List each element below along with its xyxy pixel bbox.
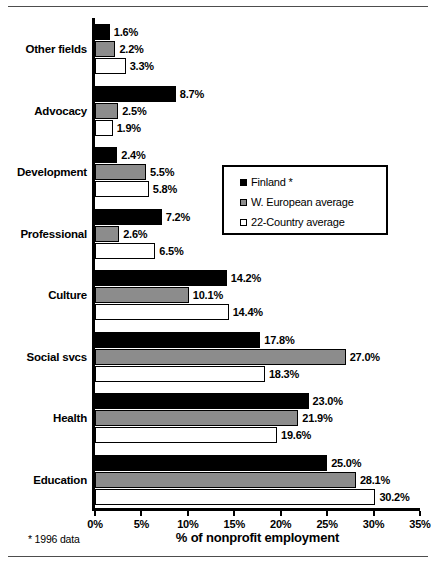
category-label: Professional — [0, 228, 87, 240]
bar[interactable] — [95, 304, 229, 320]
bar-value-label: 3.3% — [130, 59, 154, 73]
x-tick-label: 35% — [390, 518, 436, 530]
category-label: Health — [0, 412, 87, 424]
bar-value-label: 25.0% — [331, 456, 361, 470]
legend-label-w-european-average: W. European average — [251, 196, 354, 208]
bar[interactable] — [95, 86, 176, 102]
bar[interactable] — [95, 243, 155, 259]
bar-value-label: 2.4% — [121, 148, 145, 162]
bar-value-label: 14.4% — [233, 305, 263, 319]
category-label: Advocacy — [0, 105, 87, 117]
bar-value-label: 23.0% — [313, 394, 343, 408]
bar-group: Other fields1.6%2.2%3.3% — [95, 24, 420, 86]
bar-value-label: 21.9% — [302, 411, 332, 425]
bar[interactable] — [95, 147, 117, 163]
chart-footnote: * 1996 data — [28, 533, 80, 545]
bar[interactable] — [95, 270, 227, 286]
bar-value-label: 2.2% — [119, 42, 143, 56]
bar-value-label: 19.6% — [281, 428, 311, 442]
bar[interactable] — [95, 103, 118, 119]
chart-legend: Finland * W. European average 22-Country… — [222, 165, 388, 235]
bar-group: Education25.0%28.1%30.2% — [95, 455, 420, 517]
bar-value-label: 30.2% — [379, 490, 409, 504]
bar[interactable] — [95, 455, 327, 471]
category-label: Social svcs — [0, 351, 87, 363]
legend-item-w-european-average: W. European average — [240, 196, 354, 208]
bar[interactable] — [95, 287, 189, 303]
bar[interactable] — [95, 164, 146, 180]
bar-value-label: 8.7% — [180, 87, 204, 101]
category-label: Development — [0, 166, 87, 178]
bar-value-label: 6.5% — [159, 244, 183, 258]
bar[interactable] — [95, 393, 309, 409]
bar[interactable] — [95, 209, 162, 225]
bar-group: Advocacy8.7%2.5%1.9% — [95, 86, 420, 148]
bar[interactable] — [95, 226, 119, 242]
bar-group: Social svcs17.8%27.0%18.3% — [95, 332, 420, 394]
top-divider-rule — [8, 6, 428, 7]
category-label: Other fields — [0, 43, 87, 55]
bar[interactable] — [95, 41, 115, 57]
category-label: Culture — [0, 289, 87, 301]
bar-value-label: 17.8% — [264, 333, 294, 347]
x-axis-title: % of nonprofit employment — [95, 530, 420, 545]
bar[interactable] — [95, 427, 277, 443]
bar[interactable] — [95, 489, 375, 505]
legend-swatch-w-european-average — [240, 199, 247, 206]
bottom-divider-rule — [8, 556, 428, 557]
bar-value-label: 28.1% — [360, 473, 390, 487]
bar-group: Health23.0%21.9%19.6% — [95, 393, 420, 455]
legend-label-finland: Finland * — [251, 176, 293, 188]
bar-value-label: 1.9% — [117, 121, 141, 135]
bar[interactable] — [95, 58, 126, 74]
legend-item-22-country-average: 22-Country average — [240, 216, 345, 228]
bar-value-label: 18.3% — [269, 367, 299, 381]
bar-value-label: 5.8% — [153, 182, 177, 196]
bar-value-label: 5.5% — [150, 165, 174, 179]
bar[interactable] — [95, 181, 149, 197]
bar-chart-figure: 0%5%10%15%20%25%30%35% Other fields1.6%2… — [0, 0, 436, 569]
bar-value-label: 2.5% — [122, 104, 146, 118]
category-label: Education — [0, 474, 87, 486]
bar[interactable] — [95, 472, 356, 488]
bar-value-label: 10.1% — [193, 288, 223, 302]
bar[interactable] — [95, 349, 346, 365]
bar-value-label: 1.6% — [114, 25, 138, 39]
legend-item-finland: Finland * — [240, 176, 293, 188]
legend-swatch-finland — [240, 179, 247, 186]
bar[interactable] — [95, 410, 298, 426]
bar[interactable] — [95, 120, 113, 136]
plot-area: 0%5%10%15%20%25%30%35% Other fields1.6%2… — [95, 18, 420, 508]
bar[interactable] — [95, 332, 260, 348]
legend-label-22-country-average: 22-Country average — [251, 216, 345, 228]
bar-value-label: 2.6% — [123, 227, 147, 241]
bar-value-label: 7.2% — [166, 210, 190, 224]
legend-swatch-22-country-average — [240, 219, 247, 226]
bar-value-label: 27.0% — [350, 350, 380, 364]
bar[interactable] — [95, 24, 110, 40]
bar-group: Culture14.2%10.1%14.4% — [95, 270, 420, 332]
bar[interactable] — [95, 366, 265, 382]
bar-value-label: 14.2% — [231, 271, 261, 285]
